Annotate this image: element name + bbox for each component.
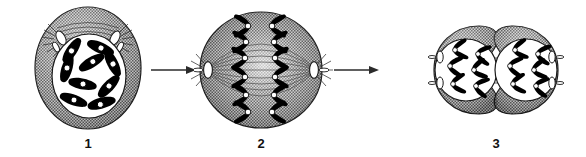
- stage-3-label: 3: [492, 136, 499, 151]
- stage-1-group: 1: [35, 7, 141, 151]
- stage-2-label: 2: [257, 136, 264, 151]
- arrow-stage2-to-stage3: [334, 66, 379, 74]
- cell-division-figure: 1: [0, 0, 586, 157]
- stage-3-group: 3: [428, 25, 564, 151]
- stage-1-label: 1: [84, 136, 91, 151]
- stage-2-group: 2: [189, 12, 333, 151]
- figure-canvas: 1: [0, 0, 586, 157]
